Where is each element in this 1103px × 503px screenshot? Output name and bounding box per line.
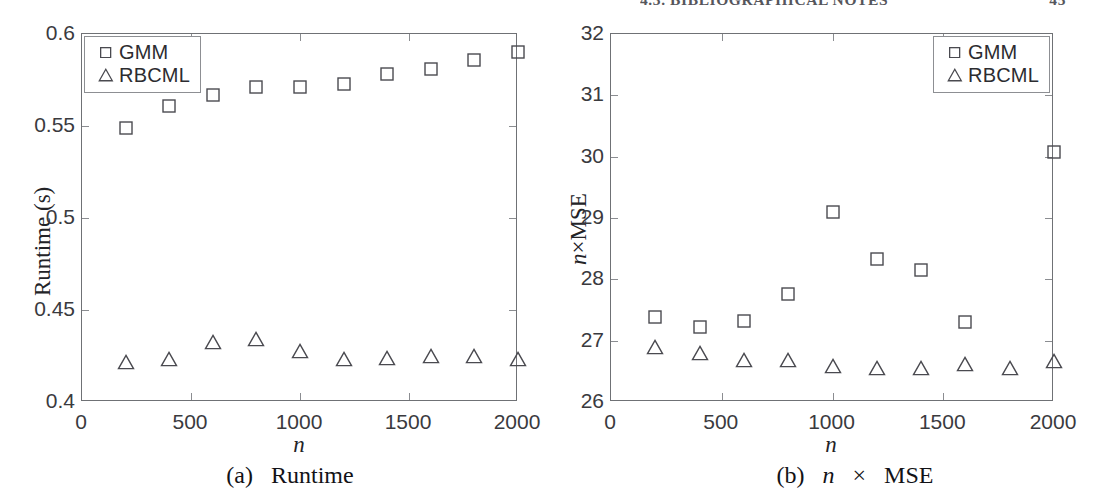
data-point-rbcml-400 xyxy=(160,351,178,367)
y-tick-30 xyxy=(1045,157,1052,158)
data-point-rbcml-800 xyxy=(247,331,265,347)
data-point-gmm-1000 xyxy=(293,81,306,94)
y-tick-30 xyxy=(611,157,618,158)
y-tick-27 xyxy=(611,341,618,342)
x-tick-label-1000: 1000 xyxy=(276,410,323,434)
subcaption-b-var: n xyxy=(823,462,835,488)
y-tick-28 xyxy=(1045,279,1052,280)
legend-label-gmm: GMM xyxy=(968,41,1017,64)
y-tick-31 xyxy=(611,95,618,96)
data-point-gmm-1800 xyxy=(468,53,481,66)
y-tick-label-30: 30 xyxy=(544,144,604,168)
y-tick-label-28: 28 xyxy=(544,266,604,290)
x-tick-1000 xyxy=(300,34,301,41)
figure-panel-runtime: GMMRBCML Runtime (s) n (a) Runtime 05001… xyxy=(0,0,560,503)
y-tick-29 xyxy=(1045,218,1052,219)
subcaption-b-prefix: (b) xyxy=(777,462,805,488)
x-tick-1000 xyxy=(833,393,834,400)
data-point-gmm-2000 xyxy=(511,46,524,59)
x-tick-1500 xyxy=(409,393,410,400)
data-point-rbcml-1200 xyxy=(335,351,353,367)
subcaption-a-prefix: (a) xyxy=(226,462,253,488)
legend-item-rbcml[interactable]: RBCML xyxy=(942,64,1039,87)
y-tick-29 xyxy=(611,218,618,219)
y-tick-27 xyxy=(1045,341,1052,342)
data-point-gmm-1400 xyxy=(380,68,393,81)
data-point-rbcml-200 xyxy=(117,354,135,370)
data-point-gmm-200 xyxy=(119,121,132,134)
figure-page: 4.3. BIBLIOGRAPHICAL NOTES 45 GMMRBCML R… xyxy=(0,0,1103,503)
x-tick-1000 xyxy=(300,393,301,400)
y-tick-0.45 xyxy=(509,310,516,311)
x-axis-title-runtime: n xyxy=(293,432,305,458)
data-point-gmm-1200 xyxy=(337,77,350,90)
x-tick-label-2000: 2000 xyxy=(1030,410,1077,434)
y-tick-label-31: 31 xyxy=(544,82,604,106)
legend-panel-a-runtime[interactable]: GMMRBCML xyxy=(84,36,201,93)
y-axis-title-nmse: n×MSE xyxy=(566,193,592,265)
x-tick-1500 xyxy=(943,393,944,400)
x-tick-label-1500: 1500 xyxy=(919,410,966,434)
data-point-rbcml-1600 xyxy=(422,348,440,364)
x-tick-label-0: 0 xyxy=(75,410,87,434)
y-tick-28 xyxy=(611,279,618,280)
y-tick-label-26: 26 xyxy=(544,389,604,413)
y-tick-label-0.5: 0.5 xyxy=(15,205,75,229)
legend-item-rbcml[interactable]: RBCML xyxy=(93,64,190,87)
square-marker-icon xyxy=(942,47,968,58)
data-point-gmm-600 xyxy=(737,314,750,327)
data-point-gmm-200 xyxy=(649,311,662,324)
x-tick-500 xyxy=(722,34,723,41)
plot-area-runtime: GMMRBCML xyxy=(82,34,516,400)
x-tick-label-1500: 1500 xyxy=(385,410,432,434)
x-tick-500 xyxy=(191,393,192,400)
x-tick-500 xyxy=(722,393,723,400)
plot-frame-nmse: GMMRBCML xyxy=(610,33,1053,401)
subcaption-a: (a) Runtime xyxy=(226,462,353,489)
legend-panel-b-nmse[interactable]: GMMRBCML xyxy=(933,36,1050,93)
square-marker-icon xyxy=(93,47,119,58)
y-tick-0.55 xyxy=(509,126,516,127)
data-point-rbcml-1800 xyxy=(1001,360,1019,376)
x-tick-label-2000: 2000 xyxy=(494,410,541,434)
y-tick-label-27: 27 xyxy=(544,328,604,352)
x-tick-1000 xyxy=(833,34,834,41)
triangle-marker-icon xyxy=(93,68,119,82)
data-point-rbcml-600 xyxy=(735,352,753,368)
data-point-rbcml-1000 xyxy=(824,358,842,374)
y-tick-label-0.4: 0.4 xyxy=(15,389,75,413)
data-point-rbcml-200 xyxy=(646,339,664,355)
legend-item-gmm[interactable]: GMM xyxy=(93,41,190,64)
x-axis-title-nmse: n xyxy=(825,432,837,458)
data-point-rbcml-1400 xyxy=(912,360,930,376)
y-tick-0.5 xyxy=(82,218,89,219)
legend-label-rbcml: RBCML xyxy=(119,64,190,87)
data-point-rbcml-400 xyxy=(691,345,709,361)
legend-label-gmm: GMM xyxy=(119,41,168,64)
data-point-rbcml-1000 xyxy=(291,343,309,359)
y-tick-label-29: 29 xyxy=(544,205,604,229)
plot-area-nmse: GMMRBCML xyxy=(611,34,1052,400)
y-tick-label-0.6: 0.6 xyxy=(15,21,75,45)
x-tick-label-0: 0 xyxy=(604,410,616,434)
x-tick-1500 xyxy=(409,34,410,41)
data-point-rbcml-1200 xyxy=(868,360,886,376)
data-point-rbcml-1400 xyxy=(378,350,396,366)
data-point-rbcml-800 xyxy=(779,352,797,368)
legend-item-gmm[interactable]: GMM xyxy=(942,41,1039,64)
y-tick-label-0.55: 0.55 xyxy=(15,113,75,137)
data-point-gmm-1400 xyxy=(914,263,927,276)
data-point-gmm-1600 xyxy=(959,315,972,328)
data-point-rbcml-2000 xyxy=(509,351,527,367)
data-point-rbcml-1800 xyxy=(465,348,483,364)
y-tick-label-32: 32 xyxy=(544,21,604,45)
data-point-gmm-400 xyxy=(693,320,706,333)
subcaption-a-text: Runtime xyxy=(271,462,354,488)
subcaption-b: (b) n × MSE xyxy=(777,462,934,489)
y-tick-0.55 xyxy=(82,126,89,127)
data-point-gmm-800 xyxy=(781,287,794,300)
y-tick-label-0.45: 0.45 xyxy=(15,297,75,321)
y-tick-31 xyxy=(1045,95,1052,96)
y-tick-0.45 xyxy=(82,310,89,311)
subcaption-b-times: × xyxy=(853,462,867,488)
